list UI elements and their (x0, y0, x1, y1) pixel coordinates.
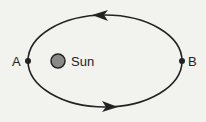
sun-label: Sun (71, 55, 94, 68)
orbit-diagram (0, 0, 206, 122)
point-b-dot (179, 58, 185, 64)
sun-icon (51, 54, 65, 68)
point-b-label: B (188, 55, 197, 68)
point-a-dot (25, 58, 31, 64)
point-a-label: A (12, 55, 21, 68)
